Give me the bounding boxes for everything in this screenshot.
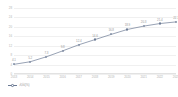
data-point-label: 18.9 <box>125 24 130 27</box>
y-axis-tick-label: 8 <box>10 54 12 57</box>
data-point-label: 9.8 <box>61 45 65 48</box>
legend-item-label: 占比(%) <box>19 84 29 88</box>
data-point-label: 12.4 <box>76 39 81 42</box>
series-line <box>14 8 176 74</box>
data-point-label: 7.3 <box>44 51 48 54</box>
legend-marker-icon <box>8 84 17 87</box>
x-axis-tick-label: 2018 <box>92 75 98 79</box>
chart-legend: 占比(%) <box>8 84 29 88</box>
x-axis: 2013201420152016201720182019202020212022… <box>14 75 176 83</box>
data-point-marker[interactable] <box>175 21 177 23</box>
data-point-marker[interactable] <box>143 25 145 27</box>
data-point-label: 20.3 <box>141 21 146 24</box>
y-axis-tick-label: 28 <box>9 7 12 10</box>
y-axis-tick-label: 4 <box>10 63 12 66</box>
data-point-marker[interactable] <box>78 44 80 46</box>
x-axis-tick-label: 2019 <box>108 75 114 79</box>
x-axis-tick-label: 2022 <box>157 75 163 79</box>
y-axis-tick-label: 20 <box>9 25 12 28</box>
x-axis-tick-label: 2020 <box>124 75 130 79</box>
x-axis-tick-label: 2014 <box>27 75 33 79</box>
y-axis-tick-label: 24 <box>9 16 12 19</box>
x-axis-tick-label: 2016 <box>59 75 65 79</box>
line-chart: 0481216202428 4.15.27.39.812.414.616.818… <box>0 0 178 97</box>
data-point-label: 4.1 <box>12 59 16 62</box>
x-axis-tick-label: 2021 <box>140 75 146 79</box>
y-axis-tick-label: 16 <box>9 35 12 38</box>
x-axis-tick-label: 2023 <box>173 75 178 79</box>
y-axis: 0481216202428 <box>0 8 14 74</box>
x-axis-tick-label: 2013 <box>11 75 17 79</box>
x-axis-tick-label: 2017 <box>76 75 82 79</box>
data-point-label: 22.1 <box>173 17 178 20</box>
data-point-label: 16.8 <box>108 29 113 32</box>
y-axis-tick-label: 12 <box>9 44 12 47</box>
x-axis-tick-label: 2015 <box>43 75 49 79</box>
data-point-label: 21.4 <box>157 18 162 21</box>
data-point-label: 14.6 <box>92 34 97 37</box>
plot-area: 4.15.27.39.812.414.616.818.920.321.422.1 <box>14 8 176 74</box>
data-point-label: 5.2 <box>28 56 32 59</box>
data-point-marker[interactable] <box>62 50 64 52</box>
data-point-marker[interactable] <box>94 38 96 40</box>
data-point-marker[interactable] <box>159 22 161 24</box>
